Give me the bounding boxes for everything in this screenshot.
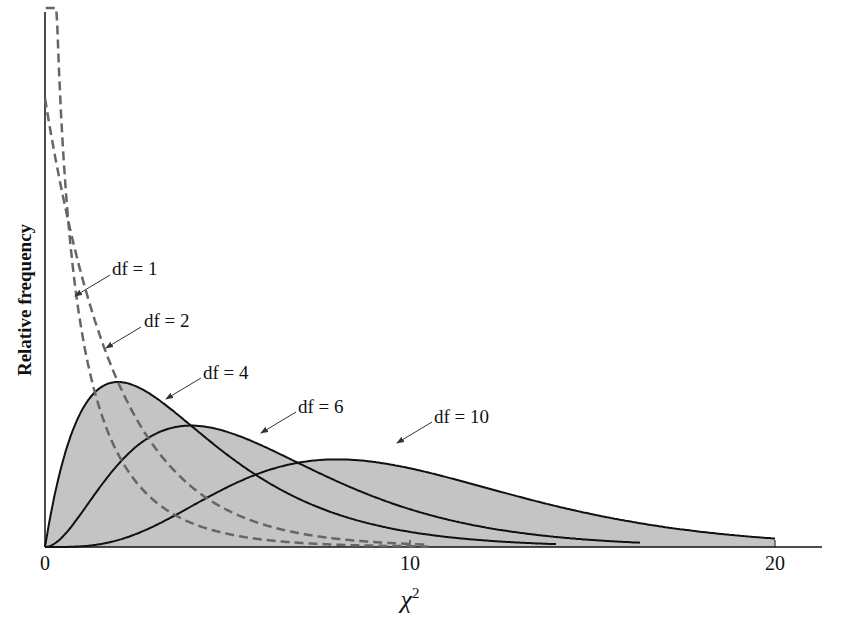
annotation-arrow-2 bbox=[166, 378, 201, 399]
chi-square-plot bbox=[0, 0, 842, 639]
annotation-df10: df = 10 bbox=[434, 406, 489, 428]
annotation-df2: df = 2 bbox=[144, 310, 190, 332]
annotation-arrow-1 bbox=[106, 327, 141, 348]
shaded-area bbox=[45, 382, 775, 547]
annotation-df4: df = 4 bbox=[203, 362, 249, 384]
annotation-arrow-4 bbox=[397, 422, 432, 443]
y-axis-label-text: Relative frequency bbox=[14, 224, 36, 376]
annotation-arrow-3 bbox=[261, 412, 296, 433]
x-tick-10: 10 bbox=[400, 552, 420, 575]
x-tick-0: 0 bbox=[40, 552, 50, 575]
x-axis-label: χ2 bbox=[401, 585, 420, 615]
annotation-df6: df = 6 bbox=[298, 396, 344, 418]
y-axis-label: Relative frequency bbox=[10, 150, 40, 450]
annotation-df1: df = 1 bbox=[112, 258, 158, 280]
x-axis-label-chi: χ bbox=[401, 585, 412, 614]
x-axis-label-sup: 2 bbox=[412, 585, 420, 601]
annotation-arrow-0 bbox=[75, 275, 110, 296]
x-tick-20: 20 bbox=[765, 552, 785, 575]
